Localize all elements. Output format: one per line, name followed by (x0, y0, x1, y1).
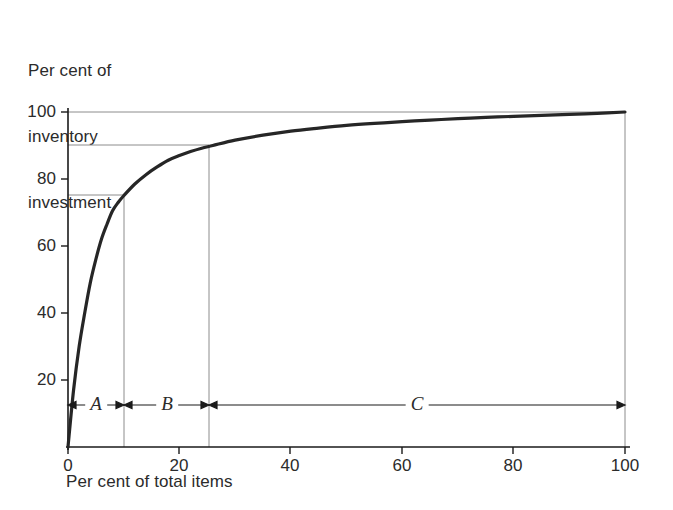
x-tick-label-80: 80 (503, 456, 522, 476)
segment-span-arrows (68, 402, 625, 409)
segment-label-b: B (156, 393, 178, 415)
abc-analysis-chart: Per cent of inventory investment (0, 0, 673, 510)
y-tick-label-100: 100 (27, 102, 56, 122)
x-axis-title: Per cent of total items (66, 471, 233, 492)
segment-c-arrow-left (209, 402, 217, 409)
segment-c-arrow-right (617, 402, 625, 409)
y-tick-label-20: 20 (37, 370, 56, 390)
x-tick-label-100: 100 (611, 456, 640, 476)
y-tick-label-40: 40 (37, 303, 56, 323)
segment-b-arrow-left (124, 402, 132, 409)
y-tick-label-60: 60 (37, 236, 56, 256)
segment-label-c: C (406, 393, 429, 415)
segment-label-a: A (85, 393, 107, 415)
y-tick-label-80: 80 (37, 169, 56, 189)
x-tick-label-60: 60 (392, 456, 411, 476)
x-tick-label-40: 40 (280, 456, 299, 476)
pareto-curve (68, 112, 625, 447)
plot-area (0, 0, 673, 510)
